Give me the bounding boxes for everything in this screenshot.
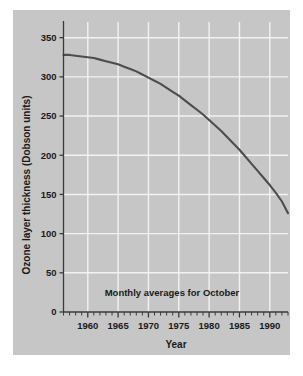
y-tick-label: 100 bbox=[41, 228, 57, 239]
x-tick-label: 1985 bbox=[229, 320, 251, 331]
chart-annotation: Monthly averages for October bbox=[105, 287, 240, 298]
y-tick-label: 300 bbox=[41, 71, 57, 82]
x-tick-label: 1965 bbox=[108, 320, 130, 331]
y-tick-label: 200 bbox=[41, 150, 57, 161]
x-axis-ticks bbox=[64, 312, 289, 318]
x-tick-labels: 1960196519701975198019851990 bbox=[77, 320, 280, 331]
ozone-line-chart: 050100150200250300350 196019651970197519… bbox=[0, 0, 303, 376]
y-tick-label: 150 bbox=[41, 189, 57, 200]
y-tick-label: 0 bbox=[51, 306, 56, 317]
y-axis-title: Ozone layer thickness (Dobson units) bbox=[21, 96, 32, 275]
x-tick-label: 1975 bbox=[168, 320, 190, 331]
ozone-trend-line bbox=[64, 55, 289, 213]
x-tick-label: 1990 bbox=[259, 320, 280, 331]
x-tick-label: 1960 bbox=[77, 320, 98, 331]
x-tick-label: 1980 bbox=[199, 320, 220, 331]
chart-figure: 050100150200250300350 196019651970197519… bbox=[0, 0, 303, 376]
y-tick-label: 250 bbox=[41, 110, 57, 121]
y-tick-label: 50 bbox=[46, 267, 57, 278]
x-axis-title: Year bbox=[165, 339, 186, 350]
y-tick-label: 350 bbox=[41, 32, 57, 43]
x-tick-label: 1970 bbox=[138, 320, 159, 331]
y-tick-labels: 050100150200250300350 bbox=[41, 32, 57, 317]
data-series-curve bbox=[64, 55, 289, 213]
